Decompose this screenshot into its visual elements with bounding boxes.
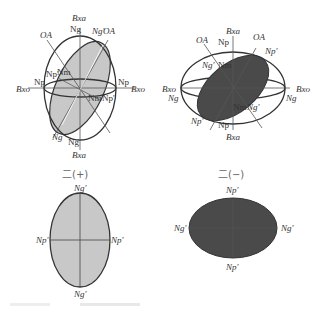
label-ng-prime-bottom: Ng' <box>51 132 66 142</box>
label-nm-right: Nm <box>88 93 102 103</box>
label-ng-right: Ng <box>285 93 297 103</box>
label-bxa-bottom: Bxa <box>226 132 240 142</box>
label-np-left: Np <box>34 77 45 87</box>
label-ng-prime-bottom: Ng' <box>73 289 88 299</box>
label-bxo-right: Bxo <box>131 84 145 94</box>
label-oa-left: OA <box>196 35 208 45</box>
label-nm-top: Nm <box>218 60 232 70</box>
caption-faint-left <box>10 303 50 306</box>
indicatrix-negative-3d: Bxa OA Np OA Np' Ng' Nm Bxo Bxo Ng Ng Nm… <box>162 26 310 142</box>
label-nm-left: Nm <box>57 67 71 77</box>
label-np-prime-left: Np' <box>35 235 50 245</box>
title-positive: 二(+) <box>62 169 88 180</box>
label-ng-prime-top: Ng' <box>73 183 88 193</box>
label-bxo-left: Bxo <box>16 84 30 94</box>
label-np-bottom: Np <box>218 120 229 130</box>
label-np-right: Np <box>118 77 129 87</box>
label-ng-top: Ng <box>70 24 81 34</box>
label-ng-prime-right: Ng' <box>280 223 295 233</box>
section-positive-2d: 二(+) Ng' Ng' Np' Np' <box>35 169 125 299</box>
label-ng-prime-right: Ng' <box>246 102 261 112</box>
label-oa-right: OA <box>103 26 115 36</box>
label-np-prime-right: Np' <box>102 93 115 103</box>
label-nm-bottom: Nm <box>233 102 247 112</box>
caption-faint-right <box>80 303 140 306</box>
indicatrix-positive-3d: Bxa Ng Ng' OA OA Np Np' Nm Np Bxo Bxo Nm… <box>16 13 145 160</box>
label-oa-right: OA <box>253 32 265 42</box>
section-negative-2d: 二(−) Np' Np' Ng' Ng' <box>173 169 295 272</box>
label-np-prime-right: Np' <box>110 235 125 245</box>
label-np-top: Np <box>218 37 229 47</box>
label-oa-left: OA <box>40 30 52 40</box>
label-ng-left: Ng <box>167 93 179 103</box>
optical-indicatrix-figure: Bxa Ng Ng' OA OA Np Np' Nm Np Bxo Bxo Nm… <box>0 0 321 312</box>
label-bxa-top: Bxa <box>226 26 240 36</box>
label-np-prime-bottom: Np' <box>225 262 240 272</box>
label-np-prime-top: Np' <box>225 185 240 195</box>
label-ng-prime-left: Ng' <box>173 223 188 233</box>
label-bxo-right: Bxo <box>296 84 310 94</box>
label-bxa-bottom: Bxa <box>72 150 86 160</box>
label-bxa-top: Bxa <box>72 13 86 23</box>
label-ng-bottom: Ng <box>68 137 79 147</box>
label-ng-prime-left: Ng' <box>201 60 216 70</box>
title-negative: 二(−) <box>218 169 244 180</box>
label-np-prime-bottom: Np' <box>190 116 205 126</box>
label-np-prime-top: Np' <box>264 46 279 56</box>
